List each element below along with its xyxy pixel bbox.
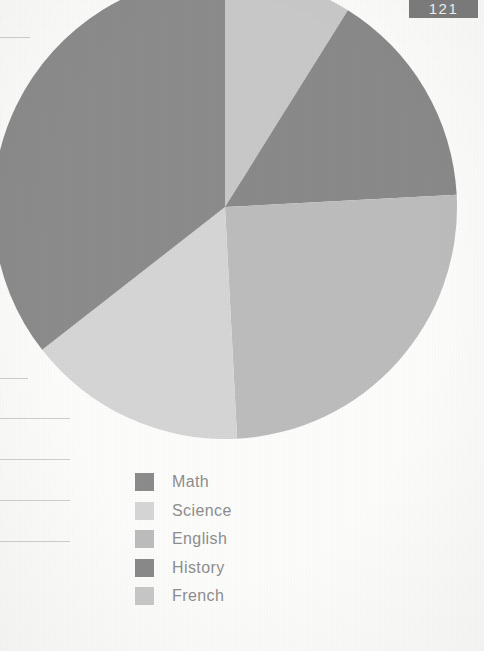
legend-label: History <box>172 559 225 577</box>
ruled-line <box>0 541 70 542</box>
legend-label: English <box>172 530 227 548</box>
legend-swatch-french <box>135 587 154 605</box>
legend-item: Math <box>135 468 232 497</box>
ruled-line <box>0 500 70 501</box>
pie-chart <box>0 0 457 439</box>
pie-slices <box>0 0 457 439</box>
legend-swatch-math <box>135 473 154 491</box>
page-number-text: 121 <box>429 0 459 17</box>
legend-item: Science <box>135 497 232 526</box>
chart-legend: MathScienceEnglishHistoryFrench <box>135 468 232 611</box>
document-page: MathScienceEnglishHistoryFrench 121 <box>0 0 484 651</box>
ruled-line <box>0 459 70 460</box>
legend-item: History <box>135 554 232 583</box>
legend-swatch-science <box>135 502 154 520</box>
legend-item: English <box>135 525 232 554</box>
legend-label: French <box>172 587 224 605</box>
pie-slice-english <box>225 195 457 439</box>
legend-swatch-history <box>135 559 154 577</box>
legend-swatch-english <box>135 530 154 548</box>
legend-item: French <box>135 582 232 611</box>
legend-label: Science <box>172 502 232 520</box>
page-number-badge: 121 <box>409 0 478 18</box>
legend-label: Math <box>172 473 209 491</box>
